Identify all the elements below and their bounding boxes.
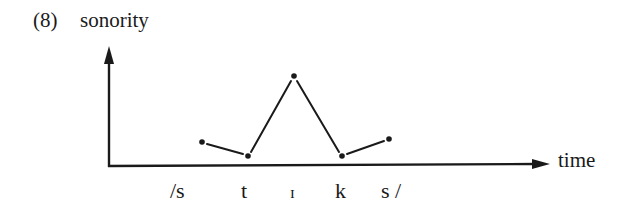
point-t (245, 153, 251, 159)
x-axis (108, 164, 536, 166)
segment-label: k (335, 180, 346, 202)
y-axis-arrow-icon (104, 46, 114, 64)
sonority-plot (0, 0, 630, 216)
segment-label: ɪ (290, 184, 295, 201)
point-s2 (386, 136, 392, 142)
point-s1 (199, 139, 205, 145)
data-points (199, 73, 392, 159)
point-k (339, 153, 345, 159)
point-i (291, 73, 297, 79)
segment-label: s / (381, 180, 401, 202)
x-axis-arrow-icon (532, 159, 550, 169)
segment-label: t (241, 180, 247, 202)
segment-label: /s (170, 180, 185, 202)
sonority-line (207, 81, 384, 154)
